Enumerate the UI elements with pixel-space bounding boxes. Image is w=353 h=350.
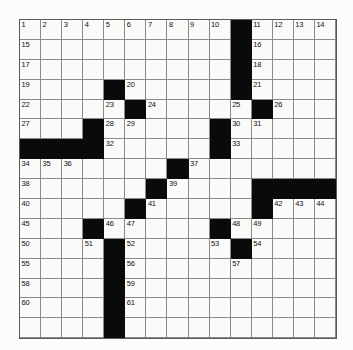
crossword-cell[interactable]: 61 — [125, 298, 146, 318]
crossword-cell[interactable]: 30 — [231, 119, 252, 139]
crossword-cell[interactable]: 41 — [146, 199, 167, 219]
crossword-cell[interactable] — [104, 40, 125, 60]
crossword-cell[interactable]: 46 — [104, 219, 125, 239]
crossword-cell[interactable] — [104, 199, 125, 219]
crossword-cell[interactable]: 38 — [20, 179, 41, 199]
crossword-cell[interactable] — [231, 199, 252, 219]
crossword-cell[interactable] — [294, 139, 315, 159]
crossword-cell[interactable] — [189, 80, 210, 100]
crossword-cell[interactable] — [146, 40, 167, 60]
crossword-cell[interactable]: 28 — [104, 119, 125, 139]
crossword-cell[interactable] — [41, 60, 62, 80]
crossword-cell[interactable] — [189, 139, 210, 159]
crossword-cell[interactable] — [315, 119, 336, 139]
crossword-cell[interactable] — [189, 199, 210, 219]
crossword-cell[interactable]: 53 — [210, 239, 231, 259]
crossword-cell[interactable]: 44 — [315, 199, 336, 219]
crossword-cell[interactable] — [315, 159, 336, 179]
crossword-cell[interactable]: 18 — [252, 60, 273, 80]
crossword-cell[interactable] — [41, 100, 62, 120]
crossword-cell[interactable] — [252, 259, 273, 279]
crossword-cell[interactable] — [146, 139, 167, 159]
crossword-cell[interactable] — [231, 159, 252, 179]
crossword-cell[interactable] — [231, 318, 252, 338]
crossword-cell[interactable] — [125, 139, 146, 159]
crossword-cell[interactable] — [146, 60, 167, 80]
crossword-cell[interactable] — [146, 318, 167, 338]
crossword-cell[interactable]: 59 — [125, 279, 146, 299]
crossword-cell[interactable] — [252, 159, 273, 179]
crossword-cell[interactable] — [315, 239, 336, 259]
crossword-cell[interactable]: 40 — [20, 199, 41, 219]
crossword-cell[interactable]: 20 — [125, 80, 146, 100]
crossword-cell[interactable] — [167, 298, 188, 318]
crossword-cell[interactable] — [273, 259, 294, 279]
crossword-cell[interactable] — [167, 239, 188, 259]
crossword-cell[interactable] — [189, 259, 210, 279]
crossword-cell[interactable] — [62, 40, 83, 60]
crossword-cell[interactable] — [210, 179, 231, 199]
crossword-cell[interactable] — [315, 60, 336, 80]
crossword-cell[interactable] — [62, 60, 83, 80]
crossword-cell[interactable] — [315, 219, 336, 239]
crossword-cell[interactable] — [167, 259, 188, 279]
crossword-cell[interactable] — [273, 318, 294, 338]
crossword-cell[interactable]: 3 — [62, 20, 83, 40]
crossword-cell[interactable]: 7 — [146, 20, 167, 40]
crossword-cell[interactable]: 11 — [252, 20, 273, 40]
crossword-cell[interactable]: 8 — [167, 20, 188, 40]
crossword-cell[interactable] — [210, 159, 231, 179]
crossword-cell[interactable] — [146, 298, 167, 318]
crossword-cell[interactable]: 10 — [210, 20, 231, 40]
crossword-cell[interactable]: 48 — [231, 219, 252, 239]
crossword-cell[interactable] — [41, 239, 62, 259]
crossword-cell[interactable]: 21 — [252, 80, 273, 100]
crossword-cell[interactable] — [62, 239, 83, 259]
crossword-cell[interactable] — [273, 119, 294, 139]
crossword-cell[interactable] — [62, 179, 83, 199]
crossword-cell[interactable]: 9 — [189, 20, 210, 40]
crossword-cell[interactable] — [189, 219, 210, 239]
crossword-cell[interactable] — [41, 179, 62, 199]
crossword-cell[interactable]: 58 — [20, 279, 41, 299]
crossword-cell[interactable] — [41, 219, 62, 239]
crossword-cell[interactable] — [83, 60, 104, 80]
crossword-cell[interactable] — [315, 100, 336, 120]
crossword-cell[interactable] — [273, 40, 294, 60]
crossword-cell[interactable] — [83, 298, 104, 318]
crossword-cell[interactable]: 35 — [41, 159, 62, 179]
crossword-cell[interactable] — [83, 199, 104, 219]
crossword-cell[interactable] — [273, 298, 294, 318]
crossword-cell[interactable] — [294, 40, 315, 60]
crossword-cell[interactable] — [189, 40, 210, 60]
crossword-cell[interactable] — [125, 318, 146, 338]
crossword-cell[interactable] — [294, 318, 315, 338]
crossword-cell[interactable] — [294, 259, 315, 279]
crossword-cell[interactable] — [41, 259, 62, 279]
crossword-cell[interactable] — [273, 139, 294, 159]
crossword-cell[interactable] — [167, 318, 188, 338]
crossword-cell[interactable] — [20, 318, 41, 338]
crossword-cell[interactable] — [294, 100, 315, 120]
crossword-cell[interactable]: 2 — [41, 20, 62, 40]
crossword-cell[interactable]: 17 — [20, 60, 41, 80]
crossword-cell[interactable] — [146, 259, 167, 279]
crossword-cell[interactable] — [125, 40, 146, 60]
crossword-cell[interactable]: 27 — [20, 119, 41, 139]
crossword-cell[interactable]: 55 — [20, 259, 41, 279]
crossword-cell[interactable] — [315, 139, 336, 159]
crossword-cell[interactable]: 25 — [231, 100, 252, 120]
crossword-cell[interactable] — [125, 60, 146, 80]
crossword-cell[interactable] — [315, 80, 336, 100]
crossword-cell[interactable] — [146, 80, 167, 100]
crossword-cell[interactable]: 22 — [20, 100, 41, 120]
crossword-cell[interactable] — [294, 239, 315, 259]
crossword-cell[interactable] — [62, 298, 83, 318]
crossword-cell[interactable] — [41, 80, 62, 100]
crossword-cell[interactable] — [167, 100, 188, 120]
crossword-cell[interactable]: 33 — [231, 139, 252, 159]
crossword-cell[interactable] — [294, 279, 315, 299]
crossword-cell[interactable]: 57 — [231, 259, 252, 279]
crossword-cell[interactable] — [146, 239, 167, 259]
crossword-cell[interactable] — [146, 279, 167, 299]
